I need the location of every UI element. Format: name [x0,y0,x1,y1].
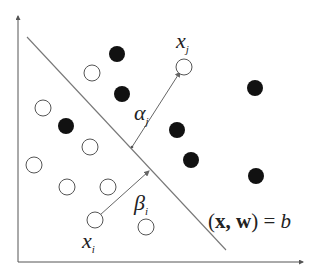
arrow-origin-dot [131,146,134,149]
filled-point [183,152,199,168]
eq-w-vector: w [236,209,251,233]
label-beta-main: β [134,190,145,215]
filled-point [169,122,185,138]
eq-x-vector: x [215,209,226,233]
eq-equals: = [258,209,280,233]
label-alpha-main: α [134,100,146,125]
eq-b: b [281,209,292,233]
hyperplane-equation: (x, w) = b [208,209,291,234]
open-point [138,219,154,235]
filled-point [248,168,264,184]
label-xi: xi [82,228,95,254]
open-point [176,59,192,75]
filled-point [114,86,130,102]
label-beta: βi [134,190,148,216]
open-point [87,212,103,228]
open-point [100,179,116,195]
open-point [35,100,51,116]
label-xj-main: x [176,28,186,53]
label-alpha-sub: j [146,115,149,127]
label-alpha: αj [134,100,149,126]
open-point [84,65,100,81]
label-xi-main: x [82,228,92,253]
hyperplane-line [27,37,226,250]
eq-lparen: ( [208,209,215,233]
open-point [26,157,42,173]
label-xj: xj [176,28,189,54]
filled-point [58,118,74,134]
diagram-canvas [0,0,319,278]
label-beta-sub: i [145,205,148,217]
open-class-points [26,59,192,235]
filled-point [247,80,263,96]
open-point [82,139,98,155]
eq-comma: , [226,209,237,233]
separating-hyperplane [27,37,226,250]
filled-point [109,46,125,62]
label-xi-sub: i [92,243,95,255]
open-point [59,179,75,195]
label-xj-sub: j [186,43,189,55]
